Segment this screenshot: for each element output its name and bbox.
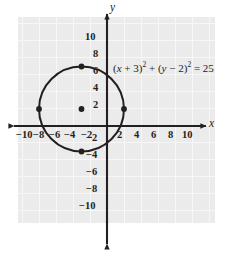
y-tick-label-10: 10 <box>85 32 96 43</box>
y-tick-label-8: 8 <box>93 49 98 60</box>
y-tick-label-neg10: −10 <box>79 201 95 212</box>
equation-plus-1: + <box>122 62 134 74</box>
y-tick-label-neg2: −2 <box>86 133 97 144</box>
x-tick-label-4: 4 <box>134 130 139 141</box>
x-tick-label-neg4: −4 <box>64 130 75 141</box>
point-center <box>79 106 85 112</box>
x-tick-label-6: 6 <box>151 130 156 141</box>
y-tick-label-neg6: −6 <box>86 167 97 178</box>
equation-minus: − <box>166 62 178 74</box>
y-tick-label-4: 4 <box>93 83 98 94</box>
y-tick-label-2: 2 <box>93 100 98 111</box>
x-tick-label-10: 10 <box>182 130 193 141</box>
point-right <box>121 106 127 112</box>
x-axis-label: x <box>209 118 214 130</box>
equation-equals: = <box>191 62 203 74</box>
y-tick-label-neg4: −4 <box>86 150 97 161</box>
point-top <box>79 64 85 70</box>
equation-plus-2: + <box>146 62 158 74</box>
equation-result-25: 25 <box>203 62 214 74</box>
x-tick-label-neg10: −10 <box>16 130 32 141</box>
x-tick-label-2: 2 <box>117 130 122 141</box>
y-tick-label-6: 6 <box>93 66 98 77</box>
y-tick-label-neg8: −8 <box>86 184 97 195</box>
point-bottom <box>79 149 85 155</box>
x-tick-label-neg8: −8 <box>33 130 44 141</box>
equation-annotation: (x + 3)2 + (y − 2)2 = 25 <box>113 61 214 74</box>
point-left <box>36 106 42 112</box>
y-axis-label: y <box>110 2 115 14</box>
figure-circle-graph: −10 −8 −6 −4 −2 2 4 6 8 10 10 8 6 4 2 −2… <box>0 0 238 257</box>
x-tick-label-neg6: −6 <box>49 130 60 141</box>
x-tick-label-8: 8 <box>168 130 173 141</box>
